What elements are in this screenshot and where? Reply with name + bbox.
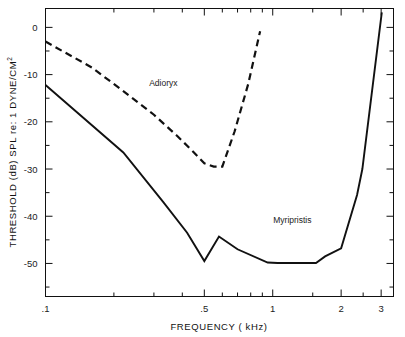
series-line-myripristis bbox=[46, 12, 382, 263]
x-tick-label: 1 bbox=[270, 303, 275, 314]
series-label-myripristis: Myripristis bbox=[273, 215, 311, 225]
x-axis-title: FREQUENCY ( kHz) bbox=[170, 321, 267, 332]
x-tick-label: 2 bbox=[338, 303, 343, 314]
x-axis-tick-labels: .1.5123 bbox=[42, 303, 384, 314]
y-tick-label: -30 bbox=[24, 164, 38, 175]
x-tick-label: .5 bbox=[200, 303, 208, 314]
y-axis-title: THRESHOLD (dB) SPL re: 1 DYNE/CM2 bbox=[6, 57, 18, 248]
series-annotation-group: AdioryxMyripristis bbox=[149, 78, 311, 225]
y-axis-tick-labels: 0-10-20-30-40-50 bbox=[24, 22, 38, 269]
y-tick-label: 0 bbox=[32, 22, 37, 33]
plot-frame bbox=[46, 9, 394, 297]
audiogram-figure: .1.5123 0-10-20-30-40-50 AdioryxMyripris… bbox=[0, 0, 405, 337]
data-series-group bbox=[46, 12, 382, 263]
series-line-adioryx bbox=[46, 31, 261, 167]
y-axis-major-ticks bbox=[46, 27, 394, 263]
y-tick-label: -10 bbox=[24, 69, 38, 80]
series-label-adioryx: Adioryx bbox=[149, 78, 178, 88]
threshold-vs-frequency-chart: .1.5123 0-10-20-30-40-50 AdioryxMyripris… bbox=[0, 0, 405, 337]
y-tick-label: -50 bbox=[24, 258, 38, 269]
y-axis-title-superscript: 2 bbox=[6, 57, 13, 61]
y-axis-title-main: THRESHOLD (dB) SPL re: 1 DYNE/CM bbox=[7, 61, 18, 248]
y-tick-label: -20 bbox=[24, 116, 38, 127]
y-tick-label: -40 bbox=[24, 211, 38, 222]
y-axis-minor-ticks bbox=[46, 51, 394, 287]
x-tick-label: 3 bbox=[378, 303, 383, 314]
x-axis-minor-ticks bbox=[114, 9, 363, 297]
y-axis-title-group: THRESHOLD (dB) SPL re: 1 DYNE/CM2 bbox=[6, 57, 18, 248]
x-tick-label: .1 bbox=[42, 303, 50, 314]
